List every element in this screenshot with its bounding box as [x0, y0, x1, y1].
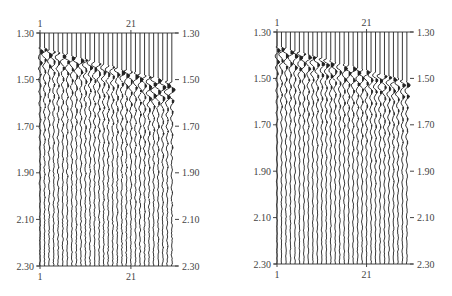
seismic-trace — [359, 32, 364, 264]
seismic-trace — [275, 32, 280, 264]
trace-fill — [167, 246, 168, 247]
trace-fill — [135, 201, 136, 203]
trace-fill — [76, 224, 77, 225]
x-tick-label-bottom: 21 — [126, 271, 136, 282]
trace-fill — [90, 158, 91, 160]
trace-fill — [362, 135, 363, 137]
trace-fill — [117, 212, 118, 213]
trace-fill — [331, 132, 332, 133]
trace-fill — [358, 152, 359, 154]
y-tick-label-right: 2.30 — [182, 261, 200, 272]
trace-fill — [49, 193, 50, 194]
y-tick-label-left: 2.30 — [254, 259, 272, 270]
trace-fill — [380, 149, 381, 150]
trace-fill — [63, 159, 64, 160]
trace-fill — [299, 92, 300, 93]
x-tick-label-bottom: 21 — [362, 269, 372, 280]
trace-fill — [367, 129, 368, 130]
seismic-trace — [356, 32, 361, 264]
seismic-trace — [337, 32, 342, 264]
trace-fill — [85, 126, 86, 129]
trace-fill — [67, 108, 68, 110]
trace-fill — [281, 94, 282, 96]
y-tick-label-left: 1.30 — [17, 28, 35, 39]
seismic-trace — [386, 32, 392, 264]
y-tick-label-left: 1.70 — [17, 121, 35, 132]
seismic-trace — [133, 33, 138, 266]
x-tick-label-top: 1 — [275, 17, 280, 28]
trace-fill — [81, 163, 82, 164]
seismic-trace — [146, 33, 152, 266]
trace-fill — [163, 247, 164, 248]
trace-fill — [326, 157, 327, 158]
seismic-trace — [319, 32, 325, 264]
trace-fill — [393, 169, 394, 170]
seismic-trace — [395, 32, 400, 264]
trace-fill — [326, 87, 327, 89]
y-tick-label-right: 1.70 — [417, 119, 435, 130]
trace-fill — [45, 174, 46, 175]
y-tick-label-right: 1.50 — [417, 73, 435, 84]
seismic-trace — [128, 33, 133, 266]
trace-fill — [353, 102, 354, 104]
seismic-trace — [110, 33, 115, 266]
trace-fill — [167, 187, 168, 189]
trace-fill — [308, 102, 309, 105]
seismic-trace — [310, 32, 316, 264]
seismic-trace — [64, 33, 69, 266]
trace-fill — [353, 126, 354, 127]
left-gather-panel: 1.301.301.501.501.701.701.901.902.102.10… — [17, 18, 200, 282]
seismic-trace — [288, 32, 294, 264]
trace-fill — [322, 155, 323, 156]
trace-fill — [389, 179, 390, 180]
y-tick-label-left: 2.10 — [17, 214, 35, 225]
seismic-gather-plots: 1.301.301.501.501.701.701.901.902.102.10… — [0, 0, 452, 296]
y-tick-label-right: 2.10 — [417, 212, 435, 223]
trace-fill — [376, 90, 378, 93]
trace-fill — [384, 109, 385, 112]
trace-fill — [340, 129, 341, 130]
seismic-trace — [377, 32, 382, 264]
trace-fill — [49, 170, 50, 171]
trace-fill — [331, 98, 332, 100]
trace-fill — [122, 151, 123, 152]
trace-fill — [362, 112, 363, 114]
seismic-trace — [373, 32, 378, 264]
seismic-trace — [74, 33, 79, 266]
y-tick-label-right: 1.90 — [182, 167, 200, 178]
seismic-trace — [368, 32, 373, 264]
y-tick-label-left: 1.90 — [17, 167, 35, 178]
trace-fill — [376, 172, 377, 173]
trace-fill — [58, 188, 59, 189]
trace-fill — [313, 125, 314, 126]
trace-fill — [358, 118, 359, 119]
y-tick-label-right: 2.30 — [417, 259, 435, 270]
seismic-trace — [137, 33, 143, 266]
trace-fill — [398, 180, 399, 181]
seismic-trace — [400, 32, 406, 264]
seismic-trace — [42, 33, 47, 266]
trace-fill — [344, 114, 345, 116]
y-tick-label-right: 1.30 — [182, 28, 200, 39]
trace-fill — [135, 134, 136, 135]
trace-fill — [393, 181, 394, 182]
trace-fill — [67, 132, 68, 133]
right-gather-panel: 1.301.301.501.501.701.701.901.902.102.10… — [254, 17, 435, 280]
trace-fill — [135, 123, 136, 124]
trace-fill — [45, 104, 46, 105]
seismic-figure: 1.301.301.501.501.701.701.901.902.102.10… — [0, 0, 452, 296]
trace-fill — [95, 91, 96, 93]
trace-fill — [108, 109, 109, 110]
x-tick-label-top: 21 — [362, 17, 372, 28]
y-tick-label-left: 1.30 — [254, 27, 272, 38]
seismic-trace — [105, 33, 110, 266]
seismic-trace — [164, 33, 170, 266]
trace-fill — [45, 197, 46, 198]
trace-fill — [295, 112, 296, 114]
trace-fill — [349, 153, 350, 154]
trace-fill — [335, 162, 336, 163]
y-tick-label-left: 1.90 — [254, 166, 272, 177]
trace-fill — [389, 157, 390, 158]
seismic-trace — [160, 33, 166, 266]
trace-fill — [122, 233, 123, 234]
